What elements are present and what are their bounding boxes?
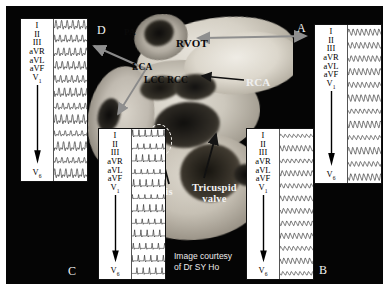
panel-letter-a: A — [297, 21, 306, 36]
ecg-trace-row — [348, 56, 381, 62]
lead-sequence-arrow-down-icon — [21, 84, 53, 167]
lead-sequence-arrow-down-icon — [315, 90, 347, 169]
ecg-trace-row — [132, 230, 165, 237]
lead-label-v6: V6 — [33, 168, 42, 179]
label-rca: RCA — [246, 77, 270, 89]
ecg-traces-b — [280, 129, 313, 279]
ecg-trace-row — [280, 159, 313, 163]
label-tricuspid-valve-line2: valve — [192, 193, 237, 204]
lead-label-v6: V6 — [327, 170, 336, 181]
ecg-trace-column-b — [280, 129, 313, 279]
ecg-trace-row — [348, 43, 381, 49]
ecg-trace-row — [280, 209, 313, 214]
ecg-trace-row — [280, 134, 313, 137]
ecg-trace-row — [348, 174, 381, 180]
ecg-panel-c: IIIIIIaVRaVLaVFV1V6 — [98, 128, 166, 280]
ecg-trace-row — [132, 243, 165, 249]
ecg-trace-row — [54, 131, 87, 137]
ecg-trace-row — [280, 233, 313, 238]
ecg-traces-c — [132, 129, 165, 279]
ecg-trace-row — [132, 144, 165, 150]
panel-letter-c: C — [68, 264, 76, 279]
lead-label-column-b: IIIIIIaVRaVLaVFV1V6 — [247, 129, 280, 279]
lead-sequence-arrow-down-icon — [99, 194, 131, 265]
ecg-trace-row — [348, 162, 381, 167]
ecg-trace-row — [348, 121, 381, 128]
panel-letter-d: D — [97, 23, 106, 38]
ecg-trace-row — [54, 103, 87, 109]
ecg-trace-row — [54, 20, 87, 29]
ecg-trace-row — [132, 255, 165, 262]
label-lcc: LCC — [144, 76, 165, 86]
ecg-trace-row — [54, 115, 87, 124]
ecg-trace-row — [54, 88, 87, 97]
figure-panel: PA RVOT LCA LCC RCC RCA His Tricuspid va… — [6, 6, 383, 284]
lead-sequence-arrow-down-icon — [247, 194, 279, 265]
ecg-trace-row — [280, 246, 313, 250]
ecg-trace-row — [348, 29, 381, 35]
lead-label-v1: V1 — [259, 183, 268, 194]
ecg-trace-row — [54, 75, 87, 82]
panel-letter-b: B — [319, 263, 327, 278]
ecg-trace-row — [348, 95, 381, 101]
ecg-trace-row — [54, 35, 87, 42]
ecg-trace-row — [54, 61, 87, 69]
label-lca: LCA — [132, 63, 153, 73]
ecg-panel-d: IIIIIIaVRaVLaVFV1V6 — [20, 18, 88, 182]
label-rcc: RCC — [167, 76, 188, 86]
ecg-trace-column-a — [348, 25, 381, 183]
ecg-trace-row — [280, 171, 313, 176]
ecg-trace-row — [280, 272, 313, 275]
ecg-trace-row — [280, 146, 313, 151]
ecg-trace-row — [132, 195, 165, 200]
lead-label-v1: V1 — [111, 183, 120, 194]
ecg-trace-column-c — [132, 129, 165, 279]
lead-label-column-c: IIIIIIaVRaVLaVFV1V6 — [99, 129, 132, 279]
ecg-trace-row — [54, 48, 87, 56]
ecg-traces-a — [348, 25, 381, 183]
ecg-trace-row — [54, 169, 87, 178]
ecg-trace-row — [132, 268, 165, 275]
ecg-trace-row — [54, 142, 87, 151]
lead-label-v6: V6 — [259, 266, 268, 277]
lead-label-column-a: IIIIIIaVRaVLaVFV1V6 — [315, 25, 348, 183]
label-tricuspid-valve: Tricuspid valve — [192, 182, 237, 204]
ecg-trace-row — [132, 179, 165, 187]
lead-label-column-d: IIIIIIaVRaVLaVFV1V6 — [21, 19, 54, 181]
ecg-trace-column-d — [54, 19, 87, 181]
ecg-trace-row — [132, 204, 165, 212]
lead-label-v6: V6 — [111, 266, 120, 277]
ecg-trace-row — [348, 109, 381, 113]
label-tricuspid-valve-line1: Tricuspid — [192, 182, 237, 193]
label-pa: PA — [124, 28, 136, 37]
ecg-trace-row — [280, 221, 313, 226]
lead-label-v1: V1 — [33, 73, 42, 84]
ecg-trace-row — [280, 258, 313, 263]
ecg-trace-row — [132, 155, 165, 163]
ecg-panel-a: IIIIIIaVRaVLaVFV1V6 — [314, 24, 382, 184]
ecg-trace-row — [280, 196, 313, 201]
ecg-trace-row — [348, 136, 381, 140]
label-rvot: RVOT — [176, 38, 208, 50]
ecg-traces-d — [54, 19, 87, 181]
ecg-trace-row — [132, 219, 165, 224]
ecg-trace-row — [348, 69, 381, 75]
ecg-trace-row — [132, 130, 165, 137]
ecg-trace-row — [280, 184, 313, 188]
ecg-trace-row — [132, 169, 165, 174]
ecg-trace-row — [348, 147, 381, 154]
lead-label-v1: V1 — [327, 79, 336, 90]
ecg-trace-row — [54, 157, 87, 163]
ecg-trace-row — [348, 82, 381, 87]
ecg-panel-b: IIIIIIaVRaVLaVFV1V6 — [246, 128, 314, 280]
